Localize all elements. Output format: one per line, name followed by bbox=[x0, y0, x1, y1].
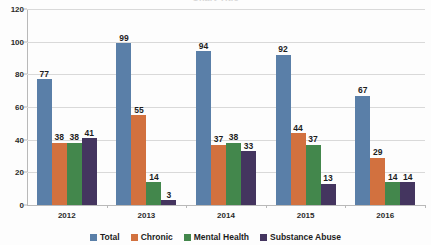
bar-chart: Chart Title 0204060801001207738384120129… bbox=[0, 0, 431, 245]
bar-chronic-2012[interactable]: 38 bbox=[52, 143, 67, 205]
bar-substance-abuse-2012[interactable]: 41 bbox=[82, 138, 97, 205]
bar-group-2012: 773838412012 bbox=[27, 9, 107, 205]
bar-value-label: 37 bbox=[308, 135, 317, 144]
bar-total-2012[interactable]: 77 bbox=[37, 79, 52, 205]
bar-chronic-2015[interactable]: 44 bbox=[291, 133, 306, 205]
bar-chronic-2014[interactable]: 37 bbox=[211, 145, 226, 205]
chart-legend: TotalChronicMental HealthSubstance Abuse bbox=[0, 232, 431, 242]
bar-total-2013[interactable]: 99 bbox=[116, 43, 131, 205]
bar-substance-abuse-2016[interactable]: 14 bbox=[400, 182, 415, 205]
bar-substance-abuse-2013[interactable]: 3 bbox=[161, 200, 176, 205]
bar-group-2015: 924437132015 bbox=[266, 9, 346, 205]
plot-area: 0204060801001207738384120129955143201394… bbox=[27, 9, 425, 205]
bar-total-2014[interactable]: 94 bbox=[196, 51, 211, 205]
bar-value-label: 37 bbox=[214, 135, 223, 144]
gridline bbox=[27, 205, 425, 206]
legend-item-mental-health[interactable]: Mental Health bbox=[184, 232, 249, 242]
legend-label: Chronic bbox=[141, 232, 173, 242]
bar-value-label: 55 bbox=[134, 106, 143, 115]
x-axis-tick-label-2015: 2015 bbox=[266, 211, 346, 220]
bar-slot: 44 bbox=[291, 9, 306, 205]
bar-slot: 37 bbox=[211, 9, 226, 205]
bar-substance-abuse-2015[interactable]: 13 bbox=[321, 184, 336, 205]
x-axis-tick-mark bbox=[186, 205, 187, 208]
legend-item-total[interactable]: Total bbox=[90, 232, 120, 242]
bar-value-label: 14 bbox=[388, 173, 397, 182]
x-axis-tick-label-2014: 2014 bbox=[186, 211, 266, 220]
bar-chronic-2016[interactable]: 29 bbox=[370, 158, 385, 205]
bar-value-label: 44 bbox=[293, 124, 302, 133]
bar-mental-health-2016[interactable]: 14 bbox=[385, 182, 400, 205]
bar-slot: 67 bbox=[355, 9, 370, 205]
bar-slot: 99 bbox=[116, 9, 131, 205]
bar-value-label: 38 bbox=[229, 133, 238, 142]
bar-value-label: 14 bbox=[403, 173, 412, 182]
bar-value-label: 29 bbox=[373, 148, 382, 157]
bar-mental-health-2014[interactable]: 38 bbox=[226, 143, 241, 205]
bar-slot: 3 bbox=[161, 9, 176, 205]
legend-item-chronic[interactable]: Chronic bbox=[131, 232, 173, 242]
x-axis-tick-mark bbox=[266, 205, 267, 208]
bar-slot: 41 bbox=[82, 9, 97, 205]
bar-slot: 29 bbox=[370, 9, 385, 205]
x-axis-tick-mark bbox=[425, 205, 426, 208]
bar-mental-health-2013[interactable]: 14 bbox=[146, 182, 161, 205]
bar-slot: 92 bbox=[276, 9, 291, 205]
bar-slot: 13 bbox=[321, 9, 336, 205]
bar-group-bars: 77383841 bbox=[27, 9, 107, 205]
bar-group-2016: 672914142016 bbox=[345, 9, 425, 205]
y-axis-tick-label: 80 bbox=[15, 70, 24, 79]
legend-swatch-icon bbox=[131, 234, 138, 241]
bar-value-label: 3 bbox=[167, 191, 172, 200]
bar-slot: 33 bbox=[241, 9, 256, 205]
bar-value-label: 41 bbox=[85, 129, 94, 138]
bar-value-label: 67 bbox=[358, 86, 367, 95]
y-axis-tick-label: 100 bbox=[11, 37, 24, 46]
legend-label: Total bbox=[100, 232, 120, 242]
bar-slot: 14 bbox=[385, 9, 400, 205]
bar-substance-abuse-2014[interactable]: 33 bbox=[241, 151, 256, 205]
bar-value-label: 14 bbox=[149, 173, 158, 182]
bar-value-label: 33 bbox=[244, 142, 253, 151]
bar-slot: 38 bbox=[52, 9, 67, 205]
x-axis-tick-label-2016: 2016 bbox=[345, 211, 425, 220]
bar-total-2016[interactable]: 67 bbox=[355, 96, 370, 205]
bar-mental-health-2015[interactable]: 37 bbox=[306, 145, 321, 205]
bar-value-label: 38 bbox=[55, 133, 64, 142]
legend-label: Substance Abuse bbox=[270, 232, 341, 242]
legend-swatch-icon bbox=[90, 234, 97, 241]
y-axis-tick-label: 40 bbox=[15, 135, 24, 144]
bar-value-label: 13 bbox=[323, 174, 332, 183]
y-axis-tick-label: 120 bbox=[11, 5, 24, 14]
y-axis-tick-label: 20 bbox=[15, 168, 24, 177]
bar-group-bars: 94373833 bbox=[186, 9, 266, 205]
bar-slot: 14 bbox=[146, 9, 161, 205]
x-axis-tick-mark bbox=[107, 205, 108, 208]
bar-group-bars: 67291414 bbox=[345, 9, 425, 205]
bar-slot: 38 bbox=[67, 9, 82, 205]
bar-slot: 37 bbox=[306, 9, 321, 205]
y-axis-tick-label: 60 bbox=[15, 103, 24, 112]
bar-slot: 77 bbox=[37, 9, 52, 205]
bar-slot: 55 bbox=[131, 9, 146, 205]
bar-total-2015[interactable]: 92 bbox=[276, 55, 291, 205]
legend-swatch-icon bbox=[184, 234, 191, 241]
bar-group-bars: 9955143 bbox=[107, 9, 187, 205]
bar-value-label: 99 bbox=[119, 34, 128, 43]
bar-slot: 38 bbox=[226, 9, 241, 205]
bar-group-bars: 92443713 bbox=[266, 9, 346, 205]
bar-value-label: 92 bbox=[278, 45, 287, 54]
bar-mental-health-2012[interactable]: 38 bbox=[67, 143, 82, 205]
bar-value-label: 38 bbox=[70, 133, 79, 142]
chart-title-remnant: Chart Title bbox=[0, 0, 431, 2]
legend-item-substance-abuse[interactable]: Substance Abuse bbox=[260, 232, 341, 242]
bar-group-2014: 943738332014 bbox=[186, 9, 266, 205]
legend-swatch-icon bbox=[260, 234, 267, 241]
bar-slot: 14 bbox=[400, 9, 415, 205]
legend-label: Mental Health bbox=[194, 232, 249, 242]
bar-value-label: 77 bbox=[40, 70, 49, 79]
bar-chronic-2013[interactable]: 55 bbox=[131, 115, 146, 205]
x-axis-tick-label-2012: 2012 bbox=[27, 211, 107, 220]
bar-value-label: 94 bbox=[199, 42, 208, 51]
x-axis-tick-label-2013: 2013 bbox=[107, 211, 187, 220]
